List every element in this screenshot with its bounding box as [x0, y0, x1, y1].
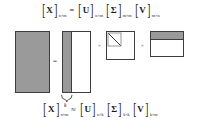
- bracket-right-icon: ]: [54, 5, 57, 16]
- equation-bottom-term-v: [ V ] k×m: [132, 104, 158, 115]
- svd-figure: [ X ] n×m = [ U ] n×m [ Σ ] m×m [ V ] m×…: [0, 0, 200, 131]
- matrix-symbol-sigma: Σ: [111, 104, 117, 115]
- bracket-right-icon: ]: [56, 104, 59, 115]
- matrix-subscript-u: n×k: [97, 112, 103, 117]
- bracket-right-icon: ]: [145, 104, 148, 115]
- equation-bottom-term-u: [ U ] n×k: [79, 104, 104, 115]
- matrix-subscript-v: m×n: [152, 13, 160, 18]
- times-operator-1: ×: [98, 43, 101, 48]
- bracket-left-icon: [: [106, 5, 109, 16]
- equation-top-term-x: [ X ] n×m: [41, 5, 67, 16]
- matrix-symbol-sigma: Σ: [111, 5, 117, 16]
- bracket-left-icon: [: [78, 5, 81, 16]
- equation-top: [ X ] n×m = [ U ] n×m [ Σ ] m×m [ V ] m×…: [0, 5, 200, 16]
- matrix-symbol-u: U: [83, 5, 90, 16]
- matrix-block-v-rank-strip: [151, 32, 183, 40]
- matrix-block-u: [62, 31, 91, 93]
- bracket-right-icon: ]: [118, 104, 121, 115]
- equals-operator: =: [53, 59, 57, 64]
- times-operator-2: ×: [141, 43, 144, 48]
- bracket-left-icon: [: [44, 104, 47, 115]
- matrix-symbol-x: X: [48, 104, 55, 115]
- bracket-left-icon: [: [135, 5, 138, 16]
- sigma-diagonal-icon: [107, 32, 136, 61]
- bracket-left-icon: [: [42, 5, 45, 16]
- equation-top-relation: =: [69, 5, 74, 16]
- matrix-symbol-v: V: [139, 5, 146, 16]
- bracket-right-icon: ]: [118, 5, 121, 16]
- matrix-subscript-x: n×m: [61, 112, 69, 117]
- equation-top-term-sigma: [ Σ ] m×m: [105, 5, 132, 16]
- equation-top-term-v: [ V ] m×n: [134, 5, 160, 16]
- matrix-block-row: = × × k: [0, 29, 200, 99]
- bracket-right-icon: ]: [90, 5, 93, 16]
- equation-bottom-term-x: [ X ] n×m: [42, 104, 68, 115]
- equation-bottom-relation: ≈: [71, 104, 75, 115]
- equation-top-term-u: [ U ] n×m: [77, 5, 103, 16]
- matrix-subscript-sigma: m×m: [123, 13, 132, 18]
- equation-bottom: [ X ] n×m ≈ [ U ] n×k [ Σ ] k×k [ V ] k×…: [0, 104, 200, 115]
- bracket-left-icon: [: [133, 104, 136, 115]
- matrix-subscript-u: n×m: [95, 13, 103, 18]
- equation-bottom-term-sigma: [ Σ ] k×k: [106, 104, 130, 115]
- matrix-block-u-rank-strip: [63, 32, 72, 92]
- bracket-left-icon: [: [80, 104, 83, 115]
- matrix-subscript-x: n×m: [59, 13, 67, 18]
- bracket-left-icon: [: [107, 104, 110, 115]
- matrix-subscript-sigma: k×k: [123, 112, 129, 117]
- matrix-block-v: [150, 31, 184, 57]
- matrix-subscript-v: k×m: [150, 112, 158, 117]
- matrix-symbol-u: U: [84, 104, 91, 115]
- bracket-right-icon: ]: [92, 104, 95, 115]
- bracket-right-icon: ]: [147, 5, 150, 16]
- matrix-block-x: [15, 31, 50, 93]
- matrix-block-sigma: [106, 31, 135, 60]
- matrix-symbol-x: X: [46, 5, 53, 16]
- matrix-symbol-v: V: [137, 104, 144, 115]
